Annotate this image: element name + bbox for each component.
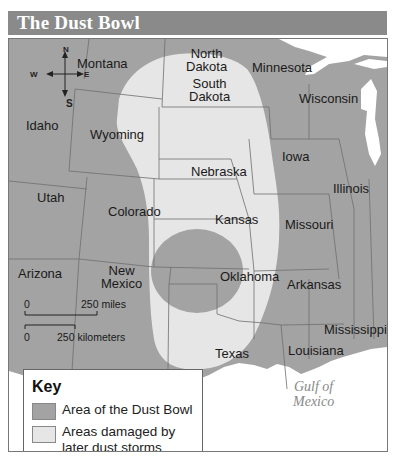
legend-label-dust-bowl: Area of the Dust Bowl: [62, 402, 193, 418]
compass-west: W: [30, 70, 38, 79]
state-label-south-dakota: South Dakota: [189, 77, 230, 103]
legend-swatch-later-damage: [32, 426, 56, 443]
state-label-mississippi: Mississippi: [324, 323, 387, 336]
label-line: Dakota: [189, 90, 230, 103]
state-label-texas: Texas: [215, 347, 249, 360]
state-label-kansas: Kansas: [215, 213, 258, 226]
gulf-of-mexico-label: Gulf of Mexico: [293, 379, 334, 409]
scale-miles-label: 250 miles: [81, 298, 126, 310]
state-label-wyoming: Wyoming: [90, 128, 144, 141]
state-label-minnesota: Minnesota: [252, 61, 312, 74]
title-divider: [8, 35, 387, 37]
state-label-arizona: Arizona: [18, 267, 62, 280]
compass-south: S: [66, 98, 73, 109]
legend-label-line1: Areas damaged by: [62, 424, 175, 440]
map-legend: Key Area of the Dust Bowl Areas damaged …: [23, 369, 203, 452]
scale-miles-zero: 0: [24, 298, 30, 310]
compass-east: E: [84, 70, 89, 79]
map-frame: N W E S Montana North Dakota Minnesota W…: [8, 38, 388, 452]
gulf-label-line1: Gulf of: [293, 379, 334, 394]
label-line: Mexico: [101, 277, 142, 290]
state-label-idaho: Idaho: [26, 119, 59, 132]
scale-km-label: 250 kilometers: [57, 331, 125, 343]
scale-km-zero: 0: [24, 331, 30, 343]
state-label-arkansas: Arkansas: [287, 278, 341, 291]
gulf-label-line2: Mexico: [293, 394, 334, 409]
state-label-oklahoma: Oklahoma: [220, 270, 279, 283]
map-title: The Dust Bowl: [17, 12, 140, 34]
compass-north: N: [63, 45, 69, 54]
state-label-new-mexico: New Mexico: [101, 264, 142, 290]
state-label-montana: Montana: [77, 57, 128, 70]
label-line: Dakota: [186, 60, 227, 73]
legend-label-line2: later dust storms: [62, 440, 175, 452]
legend-label-later-damage: Areas damaged by later dust storms: [62, 424, 175, 452]
state-label-iowa: Iowa: [282, 150, 309, 163]
state-label-missouri: Missouri: [285, 218, 333, 231]
state-label-utah: Utah: [37, 191, 64, 204]
compass-arrows-icon: [45, 47, 85, 99]
state-label-illinois: Illinois: [333, 182, 369, 195]
state-label-wisconsin: Wisconsin: [299, 92, 358, 105]
legend-swatch-dust-bowl: [32, 403, 56, 420]
legend-title: Key: [32, 378, 61, 396]
state-label-north-dakota: North Dakota: [186, 47, 227, 73]
state-label-nebraska: Nebraska: [191, 165, 247, 178]
state-label-colorado: Colorado: [108, 205, 161, 218]
map-title-bar: The Dust Bowl: [8, 11, 387, 35]
state-label-louisiana: Louisiana: [288, 344, 344, 357]
